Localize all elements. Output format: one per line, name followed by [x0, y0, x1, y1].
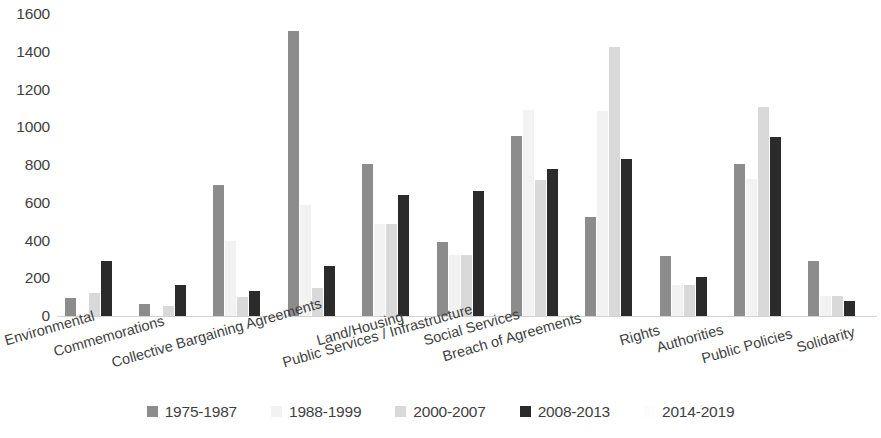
bar: [585, 217, 596, 316]
bar: [820, 296, 831, 316]
bar: [746, 179, 757, 316]
bar: [684, 285, 695, 316]
bar: [312, 288, 323, 316]
bar: [300, 205, 311, 316]
legend-label: 2000-2007: [413, 404, 485, 420]
bar: [844, 301, 855, 316]
y-axis-tick-label: 200: [0, 271, 50, 287]
bar: [535, 180, 546, 316]
bar-group: [65, 14, 124, 316]
bar-group: [585, 14, 644, 316]
x-axis-label: Rights: [618, 323, 662, 348]
bar: [461, 255, 472, 316]
bar-group: [660, 14, 719, 316]
y-axis-tick-label: 800: [0, 157, 50, 173]
bar: [101, 261, 112, 316]
bar-group: [734, 14, 793, 316]
legend-item[interactable]: 2014-2019: [644, 404, 734, 420]
legend-item[interactable]: 1988-1999: [271, 404, 361, 420]
bar-group: [213, 14, 272, 316]
x-axis-label: Authorities: [655, 322, 725, 355]
bar: [374, 224, 385, 316]
x-axis-label: Public Policies: [700, 326, 794, 366]
bar-group: [511, 14, 570, 316]
legend-item[interactable]: 2000-2007: [395, 404, 485, 420]
legend-item[interactable]: 2008-2013: [520, 404, 610, 420]
y-axis-tick-label: 400: [0, 233, 50, 249]
legend-label: 1975-1987: [165, 404, 237, 420]
bar: [213, 185, 224, 316]
chart-legend: 1975-19871988-19992000-20072008-20132014…: [0, 404, 881, 420]
legend-label: 1988-1999: [289, 404, 361, 420]
bar: [734, 164, 745, 316]
legend-label: 2014-2019: [662, 404, 734, 420]
x-axis-label: Breach of Agreements: [441, 310, 583, 363]
bar: [249, 291, 260, 316]
x-axis-label: Solidarity: [795, 325, 856, 355]
plot-area: [57, 14, 875, 316]
bar-group: [808, 14, 867, 316]
legend-swatch-icon: [271, 406, 282, 417]
bar: [324, 266, 335, 316]
legend-swatch-icon: [395, 406, 406, 417]
bar: [225, 241, 236, 317]
bar: [660, 256, 671, 316]
y-axis-tick-label: 600: [0, 195, 50, 211]
bar: [758, 107, 769, 317]
y-axis-tick-label: 1200: [0, 82, 50, 98]
bar: [65, 298, 76, 316]
bar-chart: 02004006008001000120014001600 Environmen…: [0, 0, 881, 438]
bar: [696, 277, 707, 316]
x-axis-baseline: [57, 316, 877, 317]
bar: [449, 255, 460, 316]
y-axis-tick-label: 1400: [0, 44, 50, 60]
y-axis-tick-label: 0: [0, 308, 50, 324]
bar: [473, 191, 484, 316]
bar: [609, 47, 620, 316]
y-axis-tick-label: 1600: [0, 6, 50, 22]
bar: [175, 285, 186, 316]
legend-label: 2008-2013: [538, 404, 610, 420]
bar-group: [362, 14, 421, 316]
legend-swatch-icon: [644, 406, 655, 417]
bar: [386, 224, 397, 316]
bar: [832, 296, 843, 316]
bar: [770, 137, 781, 316]
bar: [398, 195, 409, 316]
bar: [672, 285, 683, 316]
legend-swatch-icon: [147, 406, 158, 417]
bar: [437, 242, 448, 316]
bar-group: [437, 14, 496, 316]
bar: [163, 306, 174, 316]
bar-group: [139, 14, 198, 316]
bar: [523, 110, 534, 316]
bar: [288, 31, 299, 316]
bar: [547, 169, 558, 316]
legend-swatch-icon: [520, 406, 531, 417]
bar: [362, 164, 373, 316]
y-axis-tick-label: 1000: [0, 120, 50, 136]
y-axis: 02004006008001000120014001600: [0, 0, 50, 330]
bar-group: [288, 14, 347, 316]
bar: [139, 304, 150, 316]
x-axis-label: Commemorations: [52, 313, 166, 358]
bar: [808, 261, 819, 316]
legend-item[interactable]: 1975-1987: [147, 404, 237, 420]
bar: [621, 159, 632, 316]
bar: [237, 297, 248, 316]
bar: [89, 293, 100, 316]
bar: [597, 111, 608, 316]
bar: [511, 136, 522, 316]
